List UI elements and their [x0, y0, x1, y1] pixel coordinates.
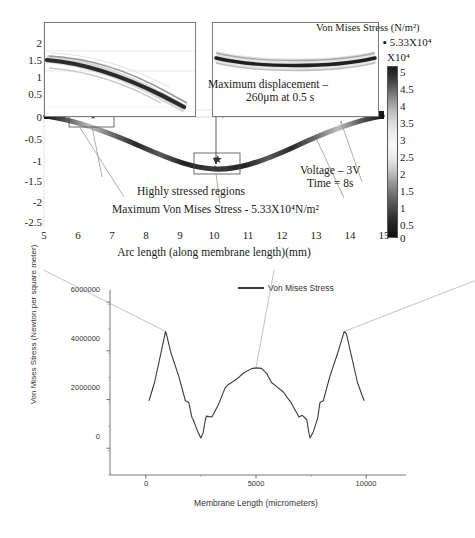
legend-line-swatch [238, 287, 264, 289]
bottom-chart-y-axis: 6000000 4000000 2000000 0 [58, 290, 104, 475]
y-tick-top-1: 1.5 [28, 55, 42, 66]
top-plot-y-axis: 2 1.5 1 0.5 0 -0.5 -1 -1.5 -2 -2.5 [12, 22, 42, 227]
von-mises-stress-line [149, 331, 364, 438]
von-mises-stress-line-chart: Von Mises Stress (Newton per square mete… [0, 272, 475, 538]
x-tick-top-8: 13 [311, 230, 322, 241]
colorbar-title: Von Mises Stress (N/m²) [316, 22, 420, 33]
colorbar-tick-10: 0 [400, 233, 406, 244]
stress-star-markers: ★ ★ [90, 113, 218, 172]
x-tick-top-2: 7 [109, 230, 115, 241]
y-tick-bot-1: 2000000 [71, 384, 100, 392]
y-tick-bot-2: 4000000 [71, 335, 100, 343]
colorbar-tick-1: 4.5 [400, 84, 414, 95]
svg-text:★: ★ [212, 164, 218, 172]
y-tick-bot-0: 0 [96, 433, 100, 441]
x-tick-top-5: 10 [209, 230, 220, 241]
svg-text:★: ★ [214, 155, 221, 164]
colorbar-tick-2: 4 [400, 101, 406, 112]
inset-left-zoom-view [44, 22, 196, 117]
x-tick-top-0: 5 [41, 230, 47, 241]
annotation-voltage-time: Voltage – 3V Time = 8s [300, 164, 360, 190]
y-tick-top-2: 1 [37, 72, 43, 83]
y-tick-top-8: -2 [33, 197, 42, 208]
colorbar-tick-0: 5 [400, 67, 406, 78]
colorbar-tick-6: 2 [400, 169, 406, 180]
max-displacement-line-2: 260μm at 0.5 s [208, 91, 328, 104]
von-mises-stress-contour-figure: 2 1.5 1 0.5 0 -0.5 -1 -1.5 -2 -2.5 [0, 0, 475, 268]
colorbar-multiplier: X10⁴ [387, 51, 410, 63]
y-tick-top-5: -0.5 [25, 134, 42, 145]
x-tick-top-1: 6 [75, 230, 81, 241]
x-tick-top-3: 8 [143, 230, 149, 241]
y-tick-top-9: -2.5 [25, 217, 42, 228]
colorbar-tick-7: 1.5 [400, 186, 414, 197]
colorbar-tick-5: 2.5 [400, 152, 414, 163]
x-tick-bot-0: 0 [144, 480, 148, 488]
colorbar-tick-9: 0.5 [400, 220, 414, 231]
x-tick-bot-1: 5000 [248, 480, 265, 488]
y-tick-top-0: 2 [37, 38, 43, 49]
annotation-highly-stressed-regions: Highly stressed regions [137, 185, 245, 198]
bottom-chart-x-axis: 0 5000 10000 [106, 480, 406, 492]
bottom-chart-axes [107, 290, 407, 479]
colorbar-max-value: ▪ 5.33X10⁴ [383, 36, 432, 48]
voltage-value: Voltage – 3V [300, 164, 360, 177]
colorbar-tick-3: 3.5 [400, 118, 414, 129]
y-tick-top-7: -1.5 [25, 176, 42, 187]
colorbar-gradient-bar [387, 66, 398, 238]
x-tick-top-4: 9 [177, 230, 183, 241]
x-tick-top-9: 14 [345, 230, 356, 241]
annotation-max-von-mises-stress: Maximum Von Mises Stress - 5.33X10⁴N/m² [112, 203, 319, 216]
y-tick-bot-3: 6000000 [71, 286, 100, 294]
bottom-chart-y-axis-label: Von Mises Stress (Newton per square mete… [29, 240, 38, 410]
top-plot-x-axis: 5 6 7 8 9 10 11 12 13 14 15 [44, 230, 384, 244]
y-tick-top-6: -1 [33, 156, 42, 167]
colorbar-tick-4: 3 [400, 135, 406, 146]
max-displacement-line-1: Maximum displacement – [208, 78, 328, 91]
y-tick-top-4: 0 [37, 112, 43, 123]
colorbar-legend: Von Mises Stress (N/m²) ▪ 5.33X10⁴ X10⁴ … [386, 22, 475, 237]
x-tick-top-6: 11 [243, 230, 254, 241]
top-plot-x-axis-label: Arc length (along membrane length)(mm) [44, 246, 384, 258]
y-tick-top-3: 0.5 [28, 89, 42, 100]
bottom-chart-plot-area [106, 290, 406, 475]
colorbar-tick-8: 1 [400, 203, 406, 214]
x-tick-bot-2: 10000 [356, 480, 377, 488]
x-tick-top-7: 12 [277, 230, 288, 241]
bottom-chart-x-axis-label: Membrane Length (micrometers) [106, 498, 406, 508]
time-value: Time = 8s [300, 177, 360, 190]
annotation-max-displacement: Maximum displacement – 260μm at 0.5 s [208, 78, 328, 104]
